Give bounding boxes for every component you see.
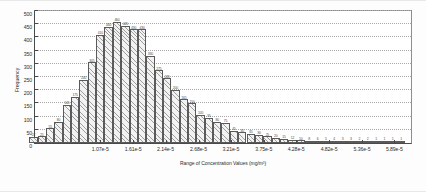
x-tick-label: 2.14e-5 xyxy=(157,146,174,152)
bar-value-label: 145 xyxy=(64,102,69,105)
bar-value-label: 240 xyxy=(81,77,86,80)
bar-value-label: 80 xyxy=(216,119,219,122)
bar-value-label: 245 xyxy=(165,76,170,79)
histogram-bar: 145 xyxy=(63,105,71,143)
scan-edge-top xyxy=(0,0,426,1)
bar-value-label: 35 xyxy=(249,131,252,134)
histogram-bar: 200 xyxy=(171,90,179,143)
histogram-bar: 240 xyxy=(79,80,87,143)
histogram-bar: 80 xyxy=(54,122,62,143)
bar-series: 2225558014517524030541044046044543043033… xyxy=(35,11,411,143)
bar-value-label: 200 xyxy=(173,87,178,90)
bar-value-label: 1 xyxy=(375,138,377,141)
histogram-bar: 330 xyxy=(146,56,154,143)
bar-value-label: 460 xyxy=(114,19,119,22)
histogram-bar: 275 xyxy=(155,70,163,143)
bar-value-label: 10 xyxy=(299,138,302,141)
bar-value-label: 440 xyxy=(106,24,111,27)
histogram-bar: 55 xyxy=(46,128,54,143)
histogram-bar: 6 xyxy=(313,141,321,143)
bar-value-label: 1 xyxy=(392,138,394,141)
bar-value-label: 445 xyxy=(123,23,128,26)
bar-value-label: 2 xyxy=(358,138,360,141)
histogram-bar: 10 xyxy=(297,140,305,143)
bar-value-label: 25 xyxy=(40,134,43,137)
bar-value-label: 1 xyxy=(400,138,402,141)
histogram-bar: 80 xyxy=(213,122,221,143)
x-tick-mark xyxy=(231,140,232,143)
histogram-bar: 3 xyxy=(338,141,346,143)
x-tick-label: 5.36e-5 xyxy=(354,146,371,152)
bar-value-label: 165 xyxy=(181,97,186,100)
bar-value-label: 6 xyxy=(317,138,319,141)
bar-value-label: 40 xyxy=(241,130,244,133)
bar-value-label: 410 xyxy=(98,32,103,35)
bar-value-label: 5 xyxy=(325,138,327,141)
bar-value-label: 3 xyxy=(342,138,344,141)
x-tick-mark xyxy=(166,140,167,143)
x-tick-mark xyxy=(264,140,265,143)
x-tick-label: 5.89e-5 xyxy=(386,146,403,152)
histogram-figure: Frequency 050100150200250300350400450500… xyxy=(0,0,426,192)
bar-value-label: 15 xyxy=(282,136,285,139)
plot-area: 050100150200250300350400450500 222555801… xyxy=(34,10,412,144)
scan-edge-bottom xyxy=(0,191,426,192)
bar-value-label: 95 xyxy=(207,115,210,118)
x-tick-mark xyxy=(133,140,134,143)
histogram-bar: 20 xyxy=(272,138,280,143)
bar-value-label: 105 xyxy=(198,112,203,115)
bar-value-label: 4 xyxy=(333,138,335,141)
bar-value-label: 275 xyxy=(156,68,161,71)
bar-value-label: 175 xyxy=(73,94,78,97)
bar-value-label: 430 xyxy=(131,27,136,30)
bar-value-label: 12 xyxy=(291,137,294,140)
bar-value-label: 25 xyxy=(266,134,269,137)
bar-value-label: 22 xyxy=(32,134,35,137)
bar-value-label: 45 xyxy=(232,128,235,131)
histogram-bar: 4 xyxy=(330,141,338,143)
bar-value-label: 8 xyxy=(308,138,310,141)
x-tick-mark xyxy=(199,140,200,143)
histogram-bar: 175 xyxy=(71,97,79,143)
histogram-bar: 15 xyxy=(280,139,288,143)
histogram-bar: 95 xyxy=(205,118,213,143)
bar-value-label: 2 xyxy=(367,138,369,141)
histogram-bar: 430 xyxy=(130,29,138,143)
x-tick-label: 4.28e-5 xyxy=(288,146,305,152)
x-tick-label: 3.75e-5 xyxy=(255,146,272,152)
x-tick-label: 1.61e-5 xyxy=(125,146,142,152)
histogram-bar: 1 xyxy=(372,141,380,143)
x-tick-label: 1.07e-5 xyxy=(92,146,109,152)
histogram-bar: 150 xyxy=(188,103,196,143)
x-tick-mark xyxy=(394,140,395,143)
x-tick-mark xyxy=(362,140,363,143)
histogram-bar: 445 xyxy=(121,26,129,143)
bar-value-label: 3 xyxy=(350,138,352,141)
bar-value-label: 1 xyxy=(383,138,385,141)
histogram-bar: 430 xyxy=(138,29,146,143)
x-tick-label: 3.21e-5 xyxy=(222,146,239,152)
bar-value-label: 75 xyxy=(224,120,227,123)
histogram-bar: 165 xyxy=(180,99,188,143)
histogram-bar: 245 xyxy=(163,78,171,143)
bar-value-label: 330 xyxy=(148,53,153,56)
bar-value-label: 80 xyxy=(57,119,60,122)
histogram-bar: 1 xyxy=(397,141,405,143)
bar-value-label: 150 xyxy=(190,101,195,104)
histogram-bar: 40 xyxy=(238,132,246,143)
bar-value-label: 55 xyxy=(48,126,51,129)
x-axis-title: Range of Concentration Values (mg/m³) xyxy=(34,160,412,166)
x-tick-label: 2.68e-5 xyxy=(190,146,207,152)
bar-value-label: 305 xyxy=(89,60,94,63)
histogram-bar: 8 xyxy=(305,141,313,143)
histogram-bar: 35 xyxy=(247,134,255,143)
histogram-bar: 2 xyxy=(363,141,371,143)
histogram-bar: 1 xyxy=(380,141,388,143)
bar-value-label: 430 xyxy=(139,27,144,30)
histogram-bar: 410 xyxy=(96,35,104,143)
histogram-bar: 440 xyxy=(104,27,112,143)
histogram-bar: 305 xyxy=(88,62,96,143)
histogram-bar: 105 xyxy=(196,115,204,143)
histogram-bar: 30 xyxy=(255,135,263,143)
x-tick-label: 4.82e-5 xyxy=(321,146,338,152)
